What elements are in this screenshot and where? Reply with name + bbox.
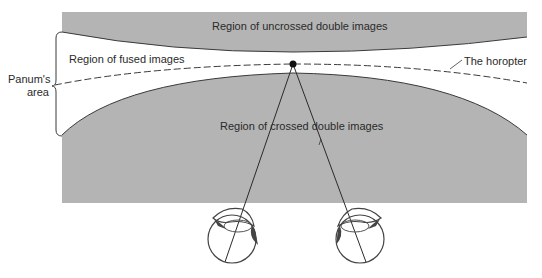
panum-label-line1: Panum's xyxy=(8,73,48,86)
right-eye xyxy=(336,208,384,263)
left-eye xyxy=(208,208,258,263)
crossed-region xyxy=(62,73,527,203)
horopter-leader xyxy=(450,60,462,69)
crossed-label: Region of crossed double images xyxy=(220,120,383,133)
uncrossed-label: Region of uncrossed double images xyxy=(212,20,388,33)
fixation-dot xyxy=(290,61,297,68)
panum-label-line2: area xyxy=(8,86,49,99)
horopter-label: The horopter xyxy=(464,55,527,68)
diagram-canvas xyxy=(0,0,542,278)
fused-label: Region of fused images xyxy=(69,53,185,66)
